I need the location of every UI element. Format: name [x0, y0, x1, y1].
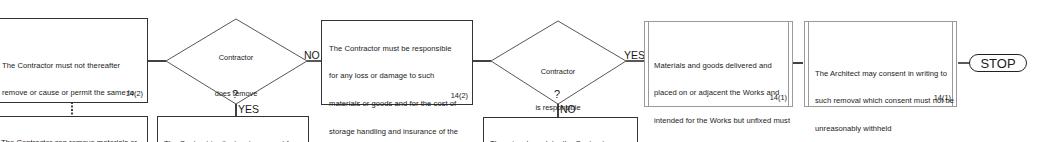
box-text: The Contractor must be responsible for a…	[329, 25, 458, 142]
clause-ref: 14(1)	[934, 93, 951, 102]
box-text: The Contract is silent as to consent for…	[164, 120, 296, 142]
text-line: Contractor	[518, 66, 598, 78]
branch-label-yes: YES	[238, 104, 259, 114]
process-box-contract-silent: The Contract is silent as to consent for…	[157, 116, 309, 142]
text-line: Contractor	[196, 52, 276, 64]
branch-label-no: NO	[304, 50, 320, 60]
text-line: The Contractor can remove materials or	[1, 138, 137, 142]
box-text: The Contractor can remove materials or g…	[1, 119, 137, 142]
box-text: There is a breach by the Contractor	[490, 120, 611, 142]
text-line: for any loss or damage to such	[329, 71, 458, 80]
text-line: Materials and goods delivered and	[654, 61, 790, 70]
text-line: The Contractor must not thereafter	[2, 61, 136, 70]
process-box-can-remove-unpaid: The Contractor can remove materials or g…	[0, 116, 148, 142]
process-box-must-not-remove: The Contractor must not thereafter remov…	[0, 18, 148, 103]
process-box-architect-consent: The Architect may consent in writing to …	[804, 21, 957, 107]
process-box-breach: There is a breach by the Contractor	[483, 117, 638, 142]
clause-ref: 14(2)	[451, 91, 468, 100]
text-line: remove or cause or permit the same to	[2, 88, 136, 97]
clause-ref: 14(2)	[126, 89, 143, 98]
process-box-contractor-responsible: The Contractor must be responsible for a…	[321, 20, 473, 105]
text-line: The Contract is silent as to consent for	[164, 139, 296, 142]
question-mark: ?	[232, 89, 238, 100]
text-line: is responsible	[518, 102, 598, 114]
text-line: The Contractor must be responsible	[329, 44, 458, 53]
text-line: The Architect may consent in writing to	[815, 69, 954, 78]
text-line: materials or goods and for the cost of	[329, 99, 458, 108]
process-box-materials-not-removed: Materials and goods delivered and placed…	[644, 21, 793, 107]
clause-ref: 14(1)	[770, 93, 787, 102]
text-line: storage handling and insurance of the	[329, 127, 458, 136]
text-line: intended for the Works but unfixed must	[654, 116, 790, 125]
stop-terminal: STOP	[969, 54, 1027, 72]
branch-label-yes: YES	[624, 50, 645, 60]
text-line: unreasonably withheld	[815, 124, 954, 133]
text-line: There is a breach by the Contractor	[490, 139, 611, 142]
question-mark: ?	[554, 89, 560, 100]
branch-label-no: NO	[560, 104, 576, 114]
box-text: Materials and goods delivered and placed…	[654, 42, 790, 142]
